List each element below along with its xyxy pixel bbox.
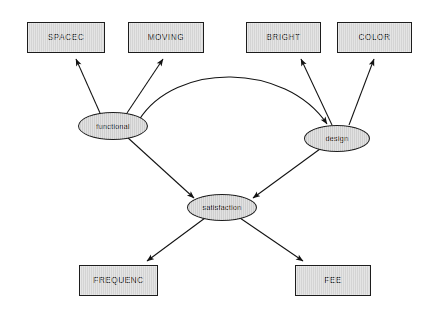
- node-functional[interactable]: functional: [78, 112, 148, 140]
- node-label-moving: MOVING: [148, 33, 185, 42]
- edge-satisfaction-to-frequenc: [147, 218, 205, 261]
- node-satisfaction[interactable]: satisfaction: [187, 194, 257, 221]
- diagram-canvas: SPACEC MOVING BRIGHT COLOR FREQUENC FEE …: [0, 0, 435, 319]
- node-moving[interactable]: MOVING: [128, 22, 204, 53]
- edge-design-to-color: [349, 59, 374, 125]
- node-label-spacec: SPACEC: [48, 33, 84, 42]
- edge-design-to-bright: [301, 59, 332, 125]
- node-bright[interactable]: BRIGHT: [246, 22, 321, 53]
- node-fee[interactable]: FEE: [295, 265, 371, 296]
- node-design[interactable]: design: [304, 125, 370, 152]
- node-label-frequenc: FREQUENC: [93, 276, 143, 285]
- node-color[interactable]: COLOR: [337, 22, 412, 53]
- node-spacec[interactable]: SPACEC: [27, 22, 105, 53]
- edge-functional-to-spacec: [76, 59, 100, 113]
- edge-functional-to-satisfaction: [127, 137, 194, 198]
- node-label-color: COLOR: [359, 33, 391, 42]
- edge-satisfaction-to-fee: [240, 218, 303, 261]
- node-label-bright: BRIGHT: [266, 33, 300, 42]
- edge-design-to-satisfaction: [253, 149, 320, 198]
- node-label-fee: FEE: [324, 276, 342, 285]
- node-frequenc[interactable]: FREQUENC: [79, 265, 158, 296]
- edge-functional-to-moving: [127, 59, 163, 113]
- node-label-design: design: [326, 134, 349, 143]
- node-label-satisfaction: satisfaction: [202, 203, 241, 212]
- node-label-functional: functional: [96, 122, 130, 131]
- edge-functional-design-covariance: [139, 77, 327, 124]
